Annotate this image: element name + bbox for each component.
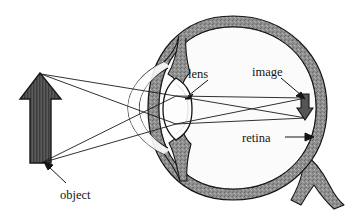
label-retina: retina xyxy=(242,131,271,145)
eyeball-group xyxy=(128,16,344,209)
label-object: object xyxy=(60,188,91,202)
label-lens: lens xyxy=(188,67,208,81)
object-arrow xyxy=(20,73,61,163)
object-leader-line xyxy=(48,166,66,183)
eye-optics-diagram: lens image retina object xyxy=(0,0,352,223)
diagram-canvas: lens image retina object xyxy=(0,0,352,223)
label-image: image xyxy=(252,65,283,79)
